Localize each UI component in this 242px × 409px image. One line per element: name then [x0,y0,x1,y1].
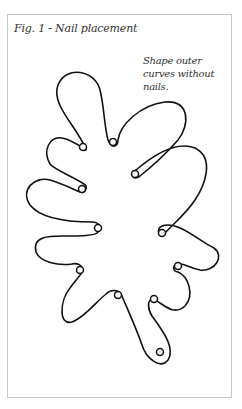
nail-icon [132,171,139,178]
shape-outline [27,72,219,363]
nail-placement-diagram [0,0,242,409]
nail-icon [151,296,158,303]
nail-icon [80,144,87,151]
nail-icon [79,186,86,193]
nail-icon [115,292,122,299]
nail-icon [110,139,117,146]
nail-icon [175,263,182,270]
nail-icon [157,349,164,356]
nail-markers [77,139,182,356]
nail-icon [159,230,166,237]
nail-icon [95,225,102,232]
nail-icon [77,267,84,274]
